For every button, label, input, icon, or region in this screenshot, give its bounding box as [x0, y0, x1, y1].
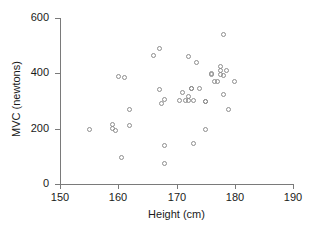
- scatter-point: [215, 79, 220, 84]
- scatter-point: [221, 73, 226, 78]
- y-tick-label: 0: [15, 178, 49, 189]
- scatter-point: [113, 128, 118, 133]
- x-tick-label: 160: [98, 192, 138, 203]
- scatter-point: [157, 46, 162, 51]
- y-tick-label: 600: [15, 12, 49, 23]
- x-tick-mark: [235, 184, 236, 189]
- y-tick-mark: [55, 129, 60, 130]
- scatter-point: [209, 72, 214, 77]
- x-tick-mark: [118, 184, 119, 189]
- scatter-point: [189, 86, 194, 91]
- scatter-point: [186, 98, 191, 103]
- x-tick-label: 170: [157, 192, 197, 203]
- scatter-point: [224, 68, 229, 73]
- x-tick-label: 190: [273, 192, 313, 203]
- scatter-point: [186, 54, 191, 59]
- x-tick-mark: [60, 184, 61, 189]
- scatter-point: [119, 155, 124, 160]
- scatter-point: [221, 32, 226, 37]
- scatter-point: [122, 75, 127, 80]
- x-tick-label: 150: [40, 192, 80, 203]
- scatter-point: [203, 99, 208, 104]
- scatter-point: [177, 98, 182, 103]
- y-axis-label: MVC (newtons): [10, 39, 22, 159]
- y-axis-line: [60, 18, 61, 185]
- x-axis-label: Height (cm): [60, 208, 293, 220]
- y-tick-mark: [55, 18, 60, 19]
- x-tick-label: 180: [215, 192, 255, 203]
- scatter-point: [116, 74, 121, 79]
- scatter-point: [180, 90, 185, 95]
- scatter-plot-figure: 0200400600 150160170180190 Height (cm) M…: [0, 0, 317, 234]
- scatter-point: [151, 53, 156, 58]
- scatter-point: [87, 127, 92, 132]
- x-tick-mark: [293, 184, 294, 189]
- y-tick-mark: [55, 73, 60, 74]
- x-tick-mark: [177, 184, 178, 189]
